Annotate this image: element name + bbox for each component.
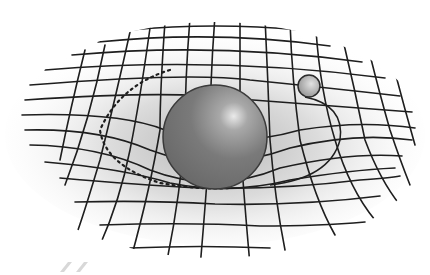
spacetime-diagram (0, 0, 430, 275)
small-sphere (298, 75, 320, 97)
large-sphere (163, 85, 267, 189)
faint-marks (60, 262, 88, 272)
diagram-canvas (0, 0, 430, 275)
